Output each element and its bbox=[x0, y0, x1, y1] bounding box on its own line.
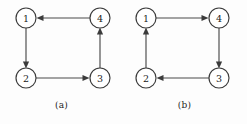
node-b-4[interactable]: 4 bbox=[209, 8, 229, 28]
node-a-1[interactable]: 1 bbox=[16, 8, 36, 28]
node-b-4-label: 4 bbox=[216, 13, 222, 24]
node-b-2[interactable]: 2 bbox=[136, 68, 156, 88]
node-a-1-label: 1 bbox=[23, 13, 29, 24]
node-b-1-label: 1 bbox=[143, 13, 149, 24]
diagram-b: 1 4 2 3 (b) bbox=[123, 0, 246, 124]
diagram-b-canvas: 1 4 2 3 bbox=[123, 0, 246, 100]
node-a-4-label: 4 bbox=[97, 13, 103, 24]
caption-a: (a) bbox=[0, 100, 123, 110]
figure-root: 1 4 2 3 (a) bbox=[0, 0, 247, 124]
diagram-a: 1 4 2 3 (a) bbox=[0, 0, 123, 124]
node-a-3[interactable]: 3 bbox=[90, 68, 110, 88]
edge-1-to-4 bbox=[156, 15, 209, 21]
edge-1-to-2 bbox=[23, 28, 29, 69]
edge-2-to-1 bbox=[143, 28, 149, 69]
edge-4-to-3 bbox=[216, 28, 222, 69]
node-b-2-label: 2 bbox=[143, 73, 149, 84]
node-a-2-label: 2 bbox=[23, 73, 29, 84]
edge-3-to-4 bbox=[97, 28, 103, 69]
edge-4-to-1 bbox=[37, 15, 91, 21]
node-a-4[interactable]: 4 bbox=[90, 8, 110, 28]
edge-3-to-2 bbox=[157, 75, 210, 81]
node-a-2[interactable]: 2 bbox=[16, 68, 36, 88]
node-b-3[interactable]: 3 bbox=[209, 68, 229, 88]
node-b-1[interactable]: 1 bbox=[136, 8, 156, 28]
node-b-3-label: 3 bbox=[216, 73, 222, 84]
diagram-a-canvas: 1 4 2 3 bbox=[0, 0, 123, 100]
node-a-3-label: 3 bbox=[97, 73, 103, 84]
caption-b: (b) bbox=[123, 100, 246, 110]
edge-2-to-3 bbox=[36, 75, 90, 81]
